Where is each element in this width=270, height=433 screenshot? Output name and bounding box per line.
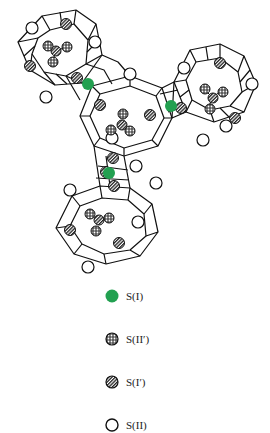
legend-item-SIprime: S(I′) <box>104 374 224 390</box>
legend-label: S(II) <box>126 417 147 433</box>
legend-label: S(I′) <box>126 374 146 390</box>
legend-item-SII: S(II) <box>104 417 224 433</box>
filled-green-circle-icon <box>104 288 120 304</box>
dotted-circle-icon <box>104 331 120 347</box>
zeolite-cage-diagram <box>0 0 270 280</box>
legend-item-SIIprime: S(II′) <box>104 331 224 347</box>
open-circle-icon <box>104 417 120 433</box>
legend-label: S(II′) <box>126 331 149 347</box>
legend-label: S(I) <box>126 288 143 304</box>
striped-circle-icon <box>104 374 120 390</box>
legend-item-SI: S(I) <box>104 288 224 304</box>
